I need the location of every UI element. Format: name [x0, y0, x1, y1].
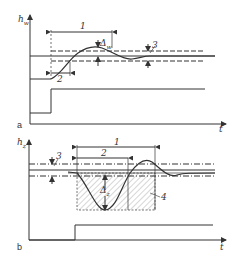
dimension-label-1-b: 1 — [114, 138, 120, 147]
panel-label-a: a — [17, 121, 22, 130]
dimension-label-4-b: 4 — [161, 193, 167, 202]
delta-subscript-a: w — [107, 43, 112, 50]
y-axis-label-a: hw — [18, 15, 29, 26]
y-axis-label-b: hz — [17, 138, 26, 149]
dimension-label-3-b: 3 — [56, 152, 62, 161]
dimension-label-2-b: 2 — [101, 149, 107, 158]
dimension-label-1-a: 1 — [80, 22, 86, 31]
step-input-b — [29, 225, 213, 240]
dimension-label-2-a: 2 — [57, 75, 63, 84]
deviation-label-b: Δz — [100, 186, 110, 197]
panel-a — [30, 15, 226, 124]
dimension-label-3-a: 3 — [152, 41, 158, 50]
response-curve-a — [51, 47, 215, 79]
panel-label-b: b — [17, 243, 22, 252]
delta-subscript-b: z — [107, 190, 110, 197]
y-axis-subscript-b: z — [23, 142, 26, 149]
x-axis-label-a: t — [219, 125, 223, 134]
control-response-diagram — [0, 0, 241, 260]
x-axis-label-b: t — [220, 243, 224, 252]
step-input-a — [30, 89, 205, 113]
overshoot-label-a: Δw — [100, 39, 112, 50]
y-axis-subscript-a: w — [24, 19, 29, 26]
